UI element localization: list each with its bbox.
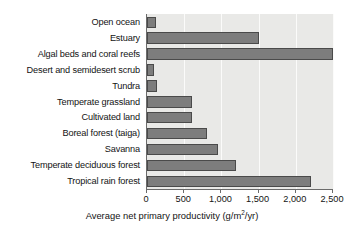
bar[interactable] bbox=[147, 17, 156, 29]
plot-area bbox=[146, 14, 333, 189]
bar-row bbox=[147, 15, 333, 30]
bar[interactable] bbox=[147, 80, 157, 92]
category-label: Savanna bbox=[0, 142, 143, 157]
x-axis-title-text: Average net primary productivity (g/m bbox=[86, 210, 242, 221]
x-axis-tick bbox=[332, 189, 333, 193]
bar-row bbox=[147, 95, 333, 110]
x-axis-tick-labels: 05001,0001,5002,0002,500 bbox=[0, 194, 344, 208]
bar-row bbox=[147, 47, 333, 62]
category-label: Desert and semidesert scrub bbox=[0, 63, 143, 78]
x-axis-tick-label: 0 bbox=[143, 194, 148, 204]
bar[interactable] bbox=[147, 64, 154, 76]
bar-row bbox=[147, 79, 333, 94]
bar-chart-figure: Open ocean Estuary Algal beds and coral … bbox=[0, 0, 344, 233]
bar-row bbox=[147, 110, 333, 125]
category-label: Algal beds and coral reefs bbox=[0, 47, 143, 62]
x-axis-tick bbox=[220, 189, 221, 193]
bar[interactable] bbox=[147, 128, 207, 140]
x-axis-tick-label: 2,000 bbox=[283, 194, 306, 204]
bar[interactable] bbox=[147, 144, 218, 156]
x-axis-tick bbox=[295, 189, 296, 193]
bar[interactable] bbox=[147, 176, 311, 188]
bar[interactable] bbox=[147, 48, 333, 60]
x-axis-tick bbox=[258, 189, 259, 193]
x-axis-tick-label: 2,500 bbox=[321, 194, 344, 204]
category-label: Temperate grassland bbox=[0, 95, 143, 110]
bar[interactable] bbox=[147, 32, 259, 44]
bar-row bbox=[147, 31, 333, 46]
x-axis-tick-label: 1,000 bbox=[209, 194, 232, 204]
x-axis-ticks bbox=[146, 189, 332, 193]
x-axis-title: Average net primary productivity (g/m2/y… bbox=[0, 210, 344, 221]
category-label: Temperate deciduous forest bbox=[0, 158, 143, 173]
category-label: Estuary bbox=[0, 31, 143, 46]
bar[interactable] bbox=[147, 112, 192, 124]
category-label: Tundra bbox=[0, 79, 143, 94]
bars-layer bbox=[147, 14, 333, 189]
x-axis-tick bbox=[146, 189, 147, 193]
bar-row bbox=[147, 142, 333, 157]
x-axis-tick-label: 500 bbox=[176, 194, 191, 204]
bar[interactable] bbox=[147, 160, 236, 172]
x-axis-title-suffix: /yr) bbox=[245, 210, 259, 221]
bar-row bbox=[147, 63, 333, 78]
gridline bbox=[333, 14, 334, 189]
bar[interactable] bbox=[147, 96, 192, 108]
category-label: Open ocean bbox=[0, 15, 143, 30]
category-label: Tropical rain forest bbox=[0, 174, 143, 189]
x-axis-tick bbox=[183, 189, 184, 193]
bar-row bbox=[147, 158, 333, 173]
bar-row bbox=[147, 126, 333, 141]
category-axis-labels: Open ocean Estuary Algal beds and coral … bbox=[0, 14, 143, 189]
x-axis-tick-label: 1,500 bbox=[246, 194, 269, 204]
bar-row bbox=[147, 174, 333, 189]
category-label: Boreal forest (taiga) bbox=[0, 126, 143, 141]
category-label: Cultivated land bbox=[0, 110, 143, 125]
